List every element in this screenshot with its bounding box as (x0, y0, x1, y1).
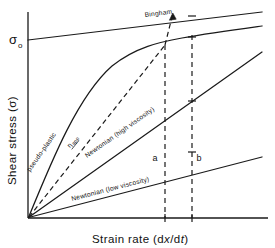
x-axis-title-prefix: Strain rate (d (92, 233, 164, 245)
pseudo-plastic-curve (29, 26, 263, 218)
rheology-plot: σ o Shear stress (σ) Strain rate (dx/dt)… (0, 0, 275, 248)
x-axis-title-mid: /d (170, 233, 180, 245)
newtonian-high-viscosity-label: Newtonian (high viscosity) (84, 105, 157, 159)
marker-label-b: b (196, 153, 201, 163)
newtonian-high-viscosity-line (29, 52, 263, 218)
sigma-symbol: σ (9, 32, 17, 47)
eta-apparent-label: ηapp (65, 134, 80, 150)
sigma-subscript: o (18, 41, 23, 50)
x-axis-title-suffix: ) (184, 233, 188, 245)
marker-label-a: a (152, 153, 157, 163)
svg-text:Strain rate (dx/dt): Strain rate (dx/dt) (92, 233, 188, 245)
y-axis-title: Shear stress (σ) (6, 96, 18, 185)
newtonian-low-viscosity-line (29, 157, 263, 218)
x-axis-title: Strain rate (dx/dt) (92, 233, 188, 245)
rheology-figure: σ o Shear stress (σ) Strain rate (dx/dt)… (0, 0, 275, 248)
yield-stress-label: σ o (9, 32, 23, 50)
pseudo-plastic-label: pseudo-plastic (25, 130, 58, 173)
bingham-label: Bingham (144, 8, 173, 19)
